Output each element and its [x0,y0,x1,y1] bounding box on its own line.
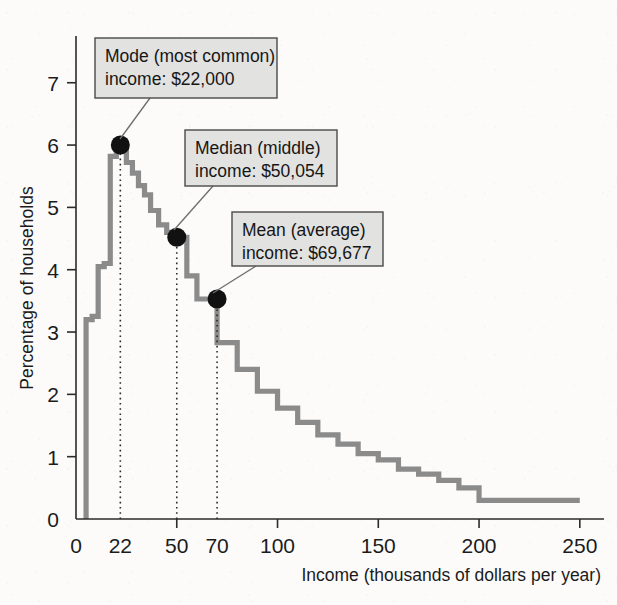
x-axis-title: Income (thousands of dollars per year) [301,565,601,585]
plot-area [86,145,580,519]
callout-line2-mean: income: $69,677 [242,243,371,263]
x-tick-label-0: 0 [70,534,82,557]
callout-mode: Mode (most common)income: $22,000 [95,38,277,98]
callout-leader-mean [213,266,256,293]
callout-line1-mode: Mode (most common) [105,46,275,66]
y-tick-label-6: 6 [47,134,59,157]
callout-line2-mode: income: $22,000 [105,69,235,89]
callout-mean: Mean (average)income: $69,677 [232,212,383,266]
callout-line1-mean: Mean (average) [242,220,366,240]
y-axis-ticks: 01234567 [47,72,76,531]
callout-group: Mode (most common)income: $22,000Median … [95,38,383,293]
x-tick-label-50: 50 [165,534,188,557]
y-tick-label-5: 5 [47,196,59,219]
x-tick-label-200: 200 [462,534,497,557]
callout-line2-median: income: $50,054 [195,161,325,181]
marker-dot-mean [208,290,227,309]
x-tick-label-150: 150 [361,534,396,557]
income-distribution-chart: 01234567 0225070100150200250 Mode (most … [0,0,617,605]
callout-leader-median [174,186,213,230]
callout-line1-median: Median (middle) [195,138,320,158]
x-tick-label-250: 250 [562,534,597,557]
x-tick-label-100: 100 [260,534,295,557]
x-axis-ticks: 0225070100150200250 [70,519,597,557]
x-tick-label-70: 70 [205,534,228,557]
y-tick-label-7: 7 [47,72,59,95]
axes-group: 01234567 0225070100150200250 [47,36,604,557]
callout-leader-mode [120,98,150,139]
y-tick-label-3: 3 [47,321,59,344]
y-tick-label-4: 4 [47,259,59,282]
callout-median: Median (middle)income: $50,054 [185,130,337,186]
dotted-guide-lines [120,149,217,519]
income-step-curve [86,145,580,519]
y-axis-title: Percentage of households [17,186,37,390]
y-tick-label-0: 0 [47,508,59,531]
marker-dot-median [167,228,186,247]
x-tick-label-22: 22 [109,534,132,557]
income-distribution-figure: 01234567 0225070100150200250 Mode (most … [0,0,617,605]
y-tick-label-1: 1 [47,446,59,469]
y-tick-label-2: 2 [47,383,59,406]
